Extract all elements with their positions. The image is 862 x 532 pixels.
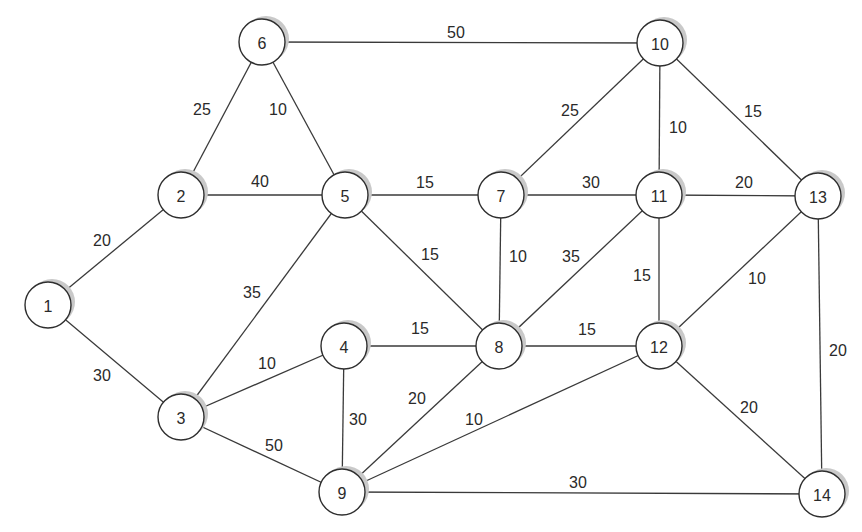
edge-weight-label: 35 <box>243 284 261 301</box>
edge-weight-label: 50 <box>447 24 465 41</box>
edge-weight-label: 15 <box>421 246 439 263</box>
node-label: 7 <box>497 188 506 205</box>
edge-weight-label: 10 <box>748 270 766 287</box>
edge-5-3 <box>181 195 345 417</box>
edge-3-9 <box>181 417 342 492</box>
node-label: 10 <box>651 36 669 53</box>
edge-13-14 <box>818 196 822 494</box>
edge-weight-label: 35 <box>562 248 580 265</box>
edge-weight-label: 20 <box>829 342 847 359</box>
edge-weight-label: 30 <box>349 411 367 428</box>
node-9: 9 <box>319 466 369 515</box>
edge-9-14 <box>342 492 822 494</box>
node-8: 8 <box>476 320 526 369</box>
edge-weight-label: 40 <box>251 173 269 190</box>
edge-weight-label: 15 <box>578 321 596 338</box>
edge-weight-label: 25 <box>561 102 579 119</box>
node-label: 3 <box>177 410 186 427</box>
edge-7-10 <box>501 43 660 195</box>
edge-weight-label: 20 <box>408 390 426 407</box>
nodes-layer: 1234567891011121314 <box>25 16 849 517</box>
edge-13-12 <box>659 196 818 346</box>
node-label: 11 <box>651 188 668 205</box>
node-7: 7 <box>478 169 528 218</box>
node-11: 11 <box>636 169 686 218</box>
edge-1-3 <box>48 305 181 417</box>
edge-weight-label: 10 <box>465 411 483 428</box>
node-label: 2 <box>177 188 186 205</box>
edge-weight-label: 15 <box>411 320 429 337</box>
node-13: 13 <box>795 170 845 219</box>
edge-weight-label: 50 <box>265 437 283 454</box>
edge-6-10 <box>262 42 660 43</box>
node-label: 4 <box>340 339 349 356</box>
edge-6-5 <box>262 42 345 195</box>
node-10: 10 <box>637 17 687 66</box>
node-12: 12 <box>636 320 686 369</box>
edge-weight-label: 15 <box>633 267 651 284</box>
edge-weight-label: 10 <box>269 101 287 118</box>
node-label: 12 <box>650 339 668 356</box>
node-4: 4 <box>321 320 371 369</box>
edge-weight-label: 20 <box>740 399 758 416</box>
edge-weight-label: 10 <box>258 355 276 372</box>
edge-weight-label: 20 <box>93 232 111 249</box>
node-label: 13 <box>809 189 827 206</box>
network-graph-diagram: 2030254010501535151050153025301010352015… <box>0 0 862 532</box>
edge-weight-label: 10 <box>669 119 687 136</box>
edge-weight-label: 25 <box>193 101 211 118</box>
edge-weight-label: 30 <box>582 174 600 191</box>
node-label: 9 <box>338 485 347 502</box>
node-label: 8 <box>495 339 504 356</box>
node-3: 3 <box>158 391 208 440</box>
edge-12-14 <box>659 346 822 494</box>
node-2: 2 <box>158 169 208 218</box>
edge-weight-label: 20 <box>735 174 753 191</box>
edge-weight-label: 10 <box>509 248 527 265</box>
node-5: 5 <box>322 169 372 218</box>
edge-weight-label: 15 <box>416 174 434 191</box>
node-label: 5 <box>341 188 350 205</box>
edge-weight-label: 15 <box>744 103 762 120</box>
node-label: 1 <box>44 298 53 315</box>
node-label: 6 <box>258 35 267 52</box>
edge-weight-label: 30 <box>93 367 111 384</box>
node-6: 6 <box>239 16 289 65</box>
node-label: 14 <box>813 487 831 504</box>
node-14: 14 <box>799 468 849 517</box>
edge-weight-label: 30 <box>569 474 587 491</box>
